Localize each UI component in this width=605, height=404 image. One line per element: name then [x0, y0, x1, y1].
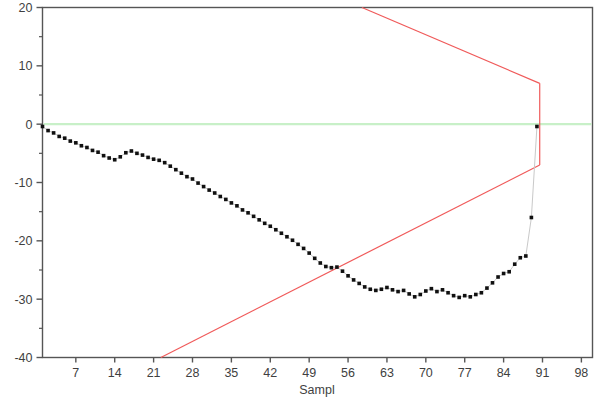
x-tick-label: 7	[72, 366, 79, 380]
data-point	[368, 287, 372, 291]
data-point	[318, 261, 322, 265]
data-point	[46, 129, 50, 133]
data-point	[157, 159, 161, 163]
data-point	[196, 181, 200, 185]
data-point	[102, 154, 106, 158]
y-axis-tick-labels: 20100-10-20-30-40	[14, 1, 32, 365]
x-tick-label: 98	[574, 366, 588, 380]
data-point	[252, 215, 256, 219]
data-point	[52, 131, 56, 135]
cusum-chart-svg: 20100-10-20-30-40 7142128354249566370778…	[0, 0, 605, 404]
data-point	[418, 293, 422, 297]
data-point	[263, 222, 267, 226]
data-point	[535, 125, 539, 129]
data-point	[396, 290, 400, 294]
data-point	[524, 254, 528, 258]
data-point	[507, 270, 511, 274]
data-point	[491, 281, 495, 285]
data-point	[435, 290, 439, 294]
data-point	[257, 218, 261, 222]
data-point	[457, 296, 461, 300]
data-point	[441, 288, 445, 292]
data-point	[357, 282, 361, 286]
data-point	[146, 156, 150, 160]
data-point	[224, 198, 228, 202]
data-point	[174, 168, 178, 172]
data-point	[118, 155, 122, 159]
x-tick-label: 84	[497, 366, 511, 380]
data-point	[124, 151, 128, 155]
x-tick-label: 63	[380, 366, 394, 380]
y-tick-label: 20	[19, 1, 33, 15]
data-point	[402, 289, 406, 293]
data-point	[274, 228, 278, 232]
data-point	[202, 185, 206, 189]
data-point	[41, 125, 45, 129]
data-point	[324, 265, 328, 269]
x-axis-ticks	[76, 358, 582, 363]
data-point	[268, 224, 272, 228]
x-tick-label: 49	[302, 366, 316, 380]
data-point	[91, 149, 95, 153]
data-point	[96, 150, 100, 154]
data-point	[80, 144, 84, 148]
data-point	[180, 171, 184, 175]
x-tick-label: 35	[224, 366, 238, 380]
data-point	[413, 295, 417, 299]
data-point	[246, 211, 250, 215]
y-tick-label: -30	[14, 293, 32, 307]
data-point	[85, 146, 89, 150]
data-point	[230, 201, 234, 205]
data-point	[185, 175, 189, 179]
x-tick-label: 91	[536, 366, 550, 380]
data-point	[113, 158, 117, 162]
data-point	[424, 289, 428, 293]
data-point	[346, 274, 350, 278]
data-point	[474, 293, 478, 297]
x-tick-label: 56	[341, 366, 355, 380]
data-point	[207, 188, 211, 192]
x-tick-label: 21	[147, 366, 161, 380]
data-point	[130, 149, 134, 153]
data-point	[446, 291, 450, 295]
data-point	[107, 156, 111, 160]
data-point	[213, 191, 217, 195]
data-point	[430, 287, 434, 291]
x-axis-title: Sampl	[299, 383, 334, 397]
x-tick-label: 42	[263, 366, 277, 380]
data-point	[463, 294, 467, 298]
plot-frame	[43, 8, 593, 358]
data-point	[141, 153, 145, 157]
data-point	[513, 262, 517, 266]
data-point	[407, 292, 411, 296]
y-tick-label: 0	[26, 118, 33, 132]
data-point	[285, 235, 289, 239]
data-point	[280, 231, 284, 235]
data-point	[341, 269, 345, 273]
data-point	[385, 286, 389, 290]
data-point	[57, 135, 61, 139]
data-point	[68, 139, 72, 143]
data-point	[168, 164, 172, 168]
data-point	[152, 157, 156, 161]
x-tick-label: 14	[108, 366, 122, 380]
data-point	[496, 275, 500, 279]
data-point	[468, 295, 472, 299]
y-tick-label: 10	[19, 59, 33, 73]
data-point	[452, 294, 456, 298]
y-tick-label: -20	[14, 234, 32, 248]
data-point	[235, 204, 239, 208]
data-point	[191, 177, 195, 181]
data-point	[380, 287, 384, 291]
data-point	[485, 286, 489, 290]
x-tick-label: 77	[458, 366, 472, 380]
data-point	[363, 285, 367, 289]
data-point	[74, 141, 78, 145]
data-point	[241, 208, 245, 212]
x-tick-label: 70	[419, 366, 433, 380]
data-point	[352, 278, 356, 282]
x-axis-tick-labels: 714212835424956637077849198	[72, 366, 588, 380]
data-point	[296, 243, 300, 247]
data-point	[502, 272, 506, 276]
data-point	[307, 251, 311, 255]
